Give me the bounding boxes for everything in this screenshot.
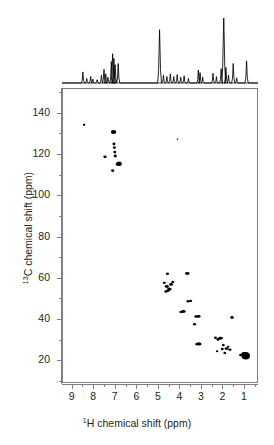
x-tick-label-9: 9	[64, 390, 80, 402]
y-minor-tick	[59, 257, 61, 258]
x-minor-tick	[126, 385, 127, 387]
cross-peak	[116, 163, 119, 166]
y-minor-tick	[59, 92, 61, 93]
cross-peak	[164, 290, 167, 293]
cross-peak	[223, 352, 226, 354]
cross-peak	[179, 311, 182, 313]
cross-peak	[195, 343, 198, 345]
x-minor-tick	[233, 385, 234, 387]
x-tick-label-5: 5	[150, 390, 166, 402]
cross-peak	[111, 130, 116, 134]
cross-peak	[214, 337, 217, 339]
cross-peak	[193, 323, 196, 326]
x-tick-label-7: 7	[107, 390, 123, 402]
y-minor-tick	[59, 340, 61, 341]
y-tick-140	[57, 113, 61, 114]
x-tick-label-6: 6	[128, 390, 144, 402]
x-minor-tick	[104, 385, 105, 387]
cross-peak	[187, 300, 190, 302]
cross-peak	[171, 281, 174, 283]
projection-trace	[62, 18, 258, 83]
y-tick-label-40: 40	[0, 313, 50, 324]
cross-peak	[113, 151, 116, 154]
x-minor-tick	[169, 385, 170, 387]
y-tick-label-140: 140	[0, 107, 50, 118]
y-minor-tick	[59, 381, 61, 382]
cross-peak	[177, 139, 179, 140]
x-tick-label-1: 1	[236, 390, 252, 402]
x-tick-6	[136, 385, 137, 389]
projection-path	[62, 18, 258, 83]
nmr-spectrum-figure: 987654321 20406080100120140 1H chemical …	[0, 0, 274, 445]
spectrum-plot-area[interactable]	[62, 88, 258, 383]
cross-peak	[216, 338, 219, 341]
cross-peak	[165, 285, 169, 288]
x-tick-8	[93, 385, 94, 389]
x-tick-2	[222, 385, 223, 389]
y-axis-line	[61, 88, 62, 384]
x-minor-tick	[82, 385, 83, 387]
cross-peak	[216, 350, 219, 352]
x-tick-4	[179, 385, 180, 389]
cross-peak	[113, 146, 116, 149]
y-minor-tick	[59, 298, 61, 299]
y-tick-label-20: 20	[0, 354, 50, 365]
cross-peak	[111, 169, 114, 172]
cross-peak	[166, 273, 169, 276]
cross-peak	[245, 353, 250, 357]
cross-peak	[228, 348, 231, 350]
cross-peak	[230, 316, 234, 319]
cross-peak	[112, 143, 115, 146]
cross-peak	[194, 315, 197, 317]
cross-peak	[227, 346, 230, 348]
x-minor-tick	[212, 385, 213, 387]
y-tick-20	[57, 360, 61, 361]
x-minor-tick	[190, 385, 191, 387]
y-minor-tick	[59, 175, 61, 176]
x-tick-7	[115, 385, 116, 389]
y-tick-40	[57, 319, 61, 320]
x-minor-tick	[147, 385, 148, 387]
projection-svg	[62, 14, 258, 86]
y-tick-80	[57, 237, 61, 238]
x-axis-title-text: H chemical shift (ppm)	[87, 417, 191, 429]
x-axis-line	[62, 384, 258, 385]
cross-peak-group	[83, 124, 250, 360]
y-axis-title-superscript: 13	[22, 276, 29, 284]
y-tick-60	[57, 278, 61, 279]
cross-peak	[163, 282, 166, 284]
cross-peak	[169, 283, 173, 286]
x-tick-3	[201, 385, 202, 389]
cross-peak	[114, 155, 117, 158]
x-tick-5	[158, 385, 159, 389]
cross-peak	[239, 354, 242, 357]
x-tick-label-3: 3	[193, 390, 209, 402]
x-minor-tick	[255, 385, 256, 387]
y-axis-title: 13C chemical shift (ppm)	[22, 148, 34, 308]
x-tick-1	[244, 385, 245, 389]
y-axis-title-text: C chemical shift (ppm)	[22, 172, 34, 276]
cross-peak	[221, 348, 224, 350]
x-tick-9	[72, 385, 73, 389]
cross-peak	[189, 300, 192, 302]
x-tick-label-8: 8	[85, 390, 101, 402]
cross-peak	[185, 272, 189, 275]
x-tick-label-2: 2	[214, 390, 230, 402]
y-minor-tick	[59, 216, 61, 217]
y-tick-120	[57, 154, 61, 155]
x-tick-label-4: 4	[171, 390, 187, 402]
cross-peak	[222, 344, 225, 346]
proton-1d-projection	[62, 14, 258, 86]
x-axis-title: 1H chemical shift (ppm)	[0, 417, 274, 429]
y-tick-100	[57, 195, 61, 196]
cross-peak	[83, 124, 86, 126]
cross-peak-layer	[63, 89, 257, 382]
y-minor-tick	[59, 133, 61, 134]
cross-peak	[103, 155, 106, 158]
